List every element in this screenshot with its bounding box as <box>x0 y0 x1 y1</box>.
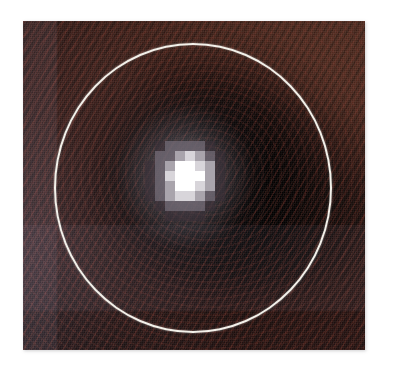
figure-root <box>0 0 394 383</box>
astronomical-image-panel[interactable] <box>23 21 365 350</box>
pixel-grid-noise <box>23 21 365 350</box>
